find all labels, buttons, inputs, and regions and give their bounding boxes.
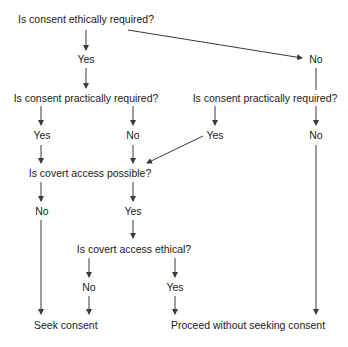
answer-practical-right-yes: Yes: [206, 129, 223, 141]
answer-practical-left-no: No: [126, 129, 139, 141]
question-covert-access-ethical: Is covert access ethical?: [77, 243, 191, 255]
answer-ethical-no: No: [309, 53, 322, 65]
question-practically-required-right: Is consent practically required?: [193, 92, 338, 104]
answer-ethical-yes: Yes: [77, 53, 94, 65]
answer-covert-possible-yes: Yes: [124, 205, 141, 217]
arrow-pr-yes-covert: [147, 136, 203, 163]
arrow-ethical-no: [128, 30, 302, 58]
outcome-proceed-without-consent: Proceed without seeking consent: [171, 319, 325, 331]
consent-decision-flowchart: Is consent ethically required? Yes No Is…: [0, 0, 348, 347]
outcome-seek-consent: Seek consent: [34, 319, 98, 331]
question-covert-access-possible: Is covert access possible?: [29, 167, 152, 179]
answer-covert-ethical-no: No: [82, 281, 95, 293]
answer-covert-ethical-yes: Yes: [166, 281, 183, 293]
answer-practical-left-yes: Yes: [33, 129, 50, 141]
answer-practical-right-no: No: [309, 129, 322, 141]
question-practically-required-left: Is consent practically required?: [14, 92, 159, 104]
question-ethically-required: Is consent ethically required?: [18, 13, 154, 25]
answer-covert-possible-no: No: [35, 205, 48, 217]
